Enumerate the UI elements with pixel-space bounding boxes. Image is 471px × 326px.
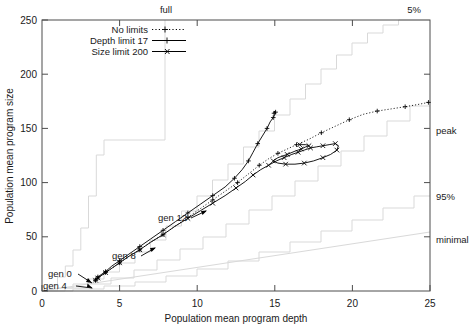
gen12-arrowhead — [201, 211, 207, 216]
annotation-gen-4: gen 4 — [43, 280, 67, 291]
peak-reference-line — [42, 106, 430, 291]
plus-marker — [403, 104, 408, 109]
plus-marker — [265, 126, 270, 131]
annotation-gen-12: gen 12 — [158, 212, 187, 223]
y-tick-label-0: 0 — [31, 286, 37, 297]
data-series-layer — [93, 100, 431, 282]
x-tick-label-0: 0 — [39, 298, 45, 309]
plus-marker — [347, 117, 352, 122]
y-tick-label-100: 100 — [20, 177, 37, 188]
chart-container: 0 50 100 150 200 250 0 5 10 15 20 25 Pop… — [0, 0, 471, 326]
x-tick-label-10: 10 — [192, 298, 204, 309]
series-size-limit-200 — [93, 141, 339, 282]
five-percent-label: 5% — [407, 4, 421, 15]
y-tick-label-200: 200 — [20, 69, 37, 80]
y-axis-title: Population mean program size — [4, 88, 15, 224]
legend-swatch-size-limit — [152, 49, 186, 54]
minimal-label: minimal — [436, 234, 469, 245]
y-tick-label-250: 250 — [20, 15, 37, 26]
cross-marker — [251, 173, 256, 178]
y-tick-label-50: 50 — [26, 231, 38, 242]
legend-swatch-no-limits — [152, 27, 186, 33]
x-tick-label-5: 5 — [117, 298, 123, 309]
cross-marker — [234, 186, 239, 191]
cross-marker — [307, 143, 312, 148]
legend-label-size-limit: Size limit 200 — [92, 46, 149, 57]
x-axis-title: Population mean program depth — [165, 313, 308, 324]
legend-swatch-depth-limit — [152, 38, 186, 44]
legend-label-depth-limit: Depth limit 17 — [90, 35, 148, 46]
x-tick-label-25: 25 — [424, 298, 436, 309]
y-tick-marks — [42, 20, 48, 291]
y-tick-label-150: 150 — [20, 123, 37, 134]
full-label: full — [160, 4, 172, 15]
peak-label: peak — [436, 125, 457, 136]
reference-lines-group — [42, 20, 430, 291]
generation-annotations: gen 0 gen 4 gen 8 gen 12 — [43, 211, 207, 292]
annotation-gen-0: gen 0 — [48, 268, 72, 279]
legend-label-no-limits: No limits — [112, 24, 149, 35]
x-tick-marks — [42, 285, 430, 291]
full-reference-line — [42, 20, 165, 291]
cross-marker — [335, 148, 340, 153]
y-tick-labels: 0 50 100 150 200 250 — [20, 15, 37, 297]
chart-legend[interactable]: No limits Depth limit 17 Size limit 200 — [44, 22, 190, 59]
plus-marker — [375, 109, 380, 114]
plus-marker — [319, 130, 324, 135]
cross-marker — [321, 155, 326, 160]
right-tick-marks — [424, 74, 430, 237]
x-tick-labels: 0 5 10 15 20 25 — [39, 298, 436, 309]
minimal-reference-line — [42, 232, 430, 291]
population-size-vs-depth-chart: 0 50 100 150 200 250 0 5 10 15 20 25 Pop… — [0, 0, 471, 326]
x-tick-label-20: 20 — [347, 298, 359, 309]
series-no-limits — [93, 100, 431, 282]
plus-marker — [276, 151, 281, 156]
top-tick-marks — [120, 20, 353, 26]
ninetyfive-percent-label: 95% — [436, 191, 456, 202]
cross-marker — [266, 163, 271, 168]
x-tick-label-15: 15 — [269, 298, 281, 309]
cross-marker — [299, 147, 304, 152]
annotation-gen-8: gen 8 — [112, 250, 136, 261]
